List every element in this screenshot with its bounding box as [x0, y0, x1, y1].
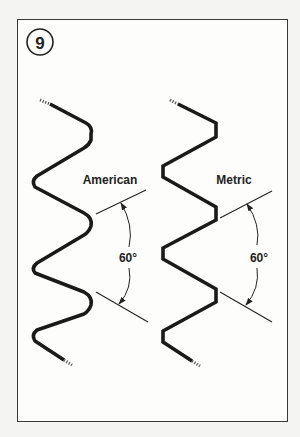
- metric-angle-label: 60°: [250, 251, 268, 265]
- figure-number: 9: [35, 34, 44, 53]
- thread-break-top: [40, 100, 50, 104]
- american-thread-profile: [33, 100, 91, 365]
- thread-break-bottom: [64, 360, 72, 365]
- thread-break-top: [170, 100, 178, 104]
- american-upper-flank-extension: [96, 190, 146, 214]
- metric-thread-profile: [163, 100, 216, 366]
- metric-lower-flank-extension: [220, 292, 272, 322]
- thread-break-bottom: [192, 361, 200, 366]
- metric-thread-line: [163, 104, 216, 361]
- thread-profile-diagram: 9 American 60° Metric 60°: [0, 0, 300, 437]
- metric-upper-flank-extension: [220, 191, 272, 218]
- figure-number-badge: 9: [27, 29, 53, 55]
- metric-angle-arrow-down: [246, 268, 258, 305]
- american-angle-label: 60°: [119, 251, 137, 265]
- american-angle-arrow-down: [119, 268, 130, 304]
- metric-angle-arrow-up: [247, 204, 258, 245]
- american-thread-line: [33, 104, 91, 360]
- metric-label: Metric: [216, 173, 252, 187]
- american-angle-arrow-up: [121, 203, 130, 247]
- american-label: American: [83, 173, 138, 187]
- american-lower-flank-extension: [96, 292, 148, 322]
